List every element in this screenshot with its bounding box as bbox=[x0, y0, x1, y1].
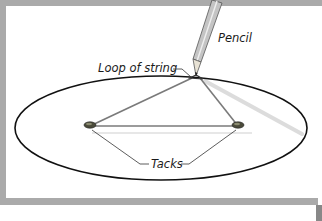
leader-line-tacks-right bbox=[181, 130, 236, 164]
label-loop-of-string: Loop of string bbox=[98, 61, 177, 75]
tack-icon bbox=[84, 122, 96, 128]
frame bbox=[0, 0, 322, 221]
ellipse-string-diagram: Pencil Loop of string Tacks bbox=[0, 0, 322, 221]
label-pencil: Pencil bbox=[218, 31, 253, 45]
label-tacks: Tacks bbox=[151, 157, 183, 171]
tack-icon bbox=[232, 122, 244, 128]
leader-line-tacks-left bbox=[92, 130, 149, 164]
